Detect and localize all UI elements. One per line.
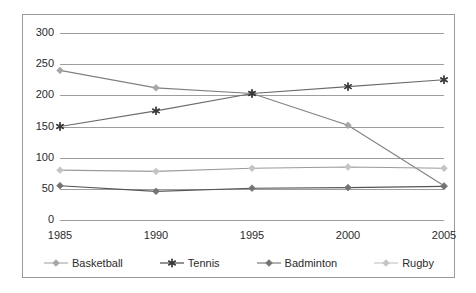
legend-item-basketball[interactable]: Basketball [43,257,123,269]
x-tick-label: 1985 [48,229,72,241]
asterisk-marker-icon [159,257,185,269]
legend-label: Badminton [285,258,338,269]
y-tick-label: 0 [48,214,54,225]
diamond-marker-icon [373,257,399,269]
y-tick-label: 50 [42,183,54,194]
x-tick-label: 2000 [336,229,360,241]
data-point [345,122,352,129]
y-tick-label: 200 [36,89,54,100]
diamond-marker-icon [256,257,282,269]
data-point [249,185,256,192]
series-layer [60,33,444,220]
y-tick-label: 100 [36,152,54,163]
x-tick-label: 1990 [144,229,168,241]
legend-item-tennis[interactable]: Tennis [159,257,220,269]
x-tick-label: 2005 [432,229,456,241]
data-point [153,188,160,195]
data-point [345,184,352,191]
series-line [60,80,444,127]
x-tick-label: 1995 [240,229,264,241]
chart-legend: BasketballTennisBadmintonRugby [22,253,455,273]
y-axis-labels: 050100150200250300 [0,0,54,293]
legend-item-badminton[interactable]: Badminton [256,257,338,269]
series-rugby [57,164,448,175]
series-tennis [56,76,447,131]
y-tick-label: 300 [36,27,54,38]
legend-label: Tennis [188,258,220,269]
legend-label: Rugby [402,258,434,269]
legend-item-rugby[interactable]: Rugby [373,257,434,269]
y-tick-label: 250 [36,58,54,69]
y-tick-label: 150 [36,121,54,132]
chart-figure: 050100150200250300 19851990199520002005 … [0,0,476,293]
data-point [249,165,256,172]
plot-area [60,33,444,220]
diamond-marker-icon [43,257,69,269]
series-badminton [57,182,448,194]
data-point [153,168,160,175]
legend-label: Basketball [72,258,123,269]
data-point [345,164,352,171]
gridline [60,220,444,221]
data-point [153,84,160,91]
